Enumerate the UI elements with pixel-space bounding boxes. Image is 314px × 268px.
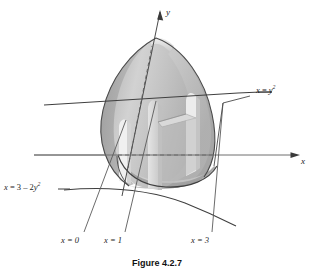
curve-label-x-equals-y-squared: x = y2 (256, 85, 276, 94)
curve-x-equals-3-minus-2y-squared (64, 189, 236, 226)
tick-label-x-equals-1: x = 1 (104, 236, 122, 245)
figure-caption: Figure 4.2.7 (0, 258, 314, 268)
label-exp: 2 (273, 84, 276, 90)
label-minus: – (21, 182, 30, 192)
slice-side-x1 (158, 103, 162, 190)
x-axis-label: x (301, 157, 305, 166)
plane-x3-top-edge (223, 96, 250, 103)
tick-label-x-equals-0: x = 0 (61, 236, 79, 245)
label-eq: = (260, 85, 269, 95)
label-exp: 2 (38, 181, 41, 187)
curve-label-x-equals-3-minus-2y-squared: x = 3 – 2y2 (4, 182, 41, 191)
y-axis-label: y (166, 8, 170, 17)
tick-label-x-equals-3: x = 3 (191, 236, 209, 245)
slice-side-x3 (196, 96, 200, 171)
solid-body (101, 38, 217, 190)
label-eq: = (8, 182, 17, 192)
